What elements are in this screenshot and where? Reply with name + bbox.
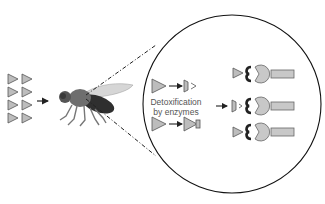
fly-icon [59,84,133,126]
triangle-icon [22,74,32,84]
triangle-icon [8,100,18,110]
triangle-icon [8,87,18,97]
triangle-icon [22,87,32,97]
detox-label-line1: Detoxification [150,97,201,107]
conjugate-tag-icon [196,120,200,128]
receptor-tail-icon [271,128,294,136]
receptor-tail-icon [271,102,294,110]
detox-label-line2: by enzymes [153,107,198,117]
receptor-tail-icon [271,70,294,78]
triangle-icon [22,100,32,110]
insecticide-molecules-group [8,74,32,123]
triangle-icon [8,74,18,84]
triangle-icon [8,113,18,123]
triangle-icon [22,113,32,123]
fragment-icon [232,100,236,112]
fragment-icon [184,80,188,92]
detox-diagram: Detoxification by enzymes [0,0,325,204]
